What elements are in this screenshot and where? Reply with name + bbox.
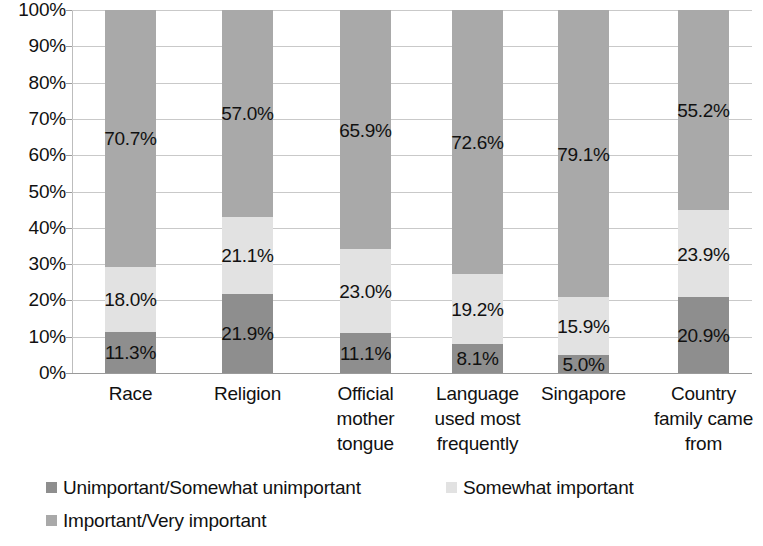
bar-segment-value-label: 8.1% [456, 349, 498, 368]
bar-segment: 65.9% [340, 10, 391, 249]
y-axis-tick-mark [66, 83, 72, 84]
bar-segment-value-label: 70.7% [104, 129, 156, 148]
legend-swatch-somewhat-important-icon [446, 482, 457, 493]
bar-segment-value-label: 72.6% [451, 133, 503, 152]
bar-race: 70.7%18.0%11.3% [105, 10, 156, 373]
bar-segment: 72.6% [452, 10, 503, 274]
x-axis-category-line: tongue [306, 431, 426, 456]
bar-segment: 15.9% [558, 297, 609, 355]
bar-segment: 23.0% [340, 249, 391, 332]
y-axis-tick-label: 70% [4, 109, 66, 128]
gridline [72, 119, 752, 120]
gridline [72, 228, 752, 229]
bar-segment: 19.2% [452, 274, 503, 344]
y-axis-tick-mark [66, 300, 72, 301]
y-axis-tick-label: 100% [4, 0, 66, 19]
bar-segment-value-label: 23.9% [677, 244, 729, 263]
x-axis-category-line: used most [418, 406, 538, 431]
gridline [72, 337, 752, 338]
legend-row-2: Important/Very important [46, 511, 746, 544]
x-axis-category-line: Official [306, 381, 426, 406]
y-axis-tick-label: 30% [4, 254, 66, 273]
x-axis-category-line: Language [418, 381, 538, 406]
bar-segment-value-label: 20.9% [677, 326, 729, 345]
x-axis-category-label: Religion [188, 381, 308, 406]
x-axis-category-label: Officialmothertongue [306, 381, 426, 456]
bar-segment-value-label: 21.1% [221, 246, 273, 265]
bar-official-mother-tongue: 65.9%23.0%11.1% [340, 10, 391, 373]
x-axis-category-label: Languageused mostfrequently [418, 381, 538, 456]
bar-segment-value-label: 55.2% [677, 101, 729, 120]
bar-segment-value-label: 11.1% [340, 343, 391, 362]
bar-segment-value-label: 21.9% [221, 324, 273, 343]
x-axis-category-label: Race [71, 381, 191, 406]
bar-segment: 21.1% [222, 217, 273, 294]
legend-item-somewhat-important[interactable]: Somewhat important [446, 478, 634, 497]
gridline [72, 83, 752, 84]
bar-segment: 18.0% [105, 267, 156, 332]
gridline [72, 300, 752, 301]
x-axis-category-line: Religion [188, 381, 308, 406]
bar-segment: 8.1% [452, 344, 503, 373]
y-axis-tick-label: 40% [4, 218, 66, 237]
bar-segment: 23.9% [678, 210, 729, 297]
plot-area: 70.7%18.0%11.3%57.0%21.1%21.9%65.9%23.0%… [72, 10, 752, 373]
legend-label-somewhat-important: Somewhat important [463, 478, 634, 497]
bar-segment-value-label: 15.9% [557, 317, 609, 336]
bar-segment-value-label: 5.0% [562, 354, 604, 373]
y-axis-tick-label: 80% [4, 73, 66, 92]
y-axis-tick-label: 50% [4, 182, 66, 201]
bar-segment: 70.7% [105, 10, 156, 267]
gridline [72, 264, 752, 265]
y-axis-tick-label: 20% [4, 290, 66, 309]
y-axis-labels: 100%90%80%70%60%50%40%30%20%10%0% [0, 0, 66, 546]
bar-singapore: 79.1%15.9%5.0% [558, 10, 609, 373]
x-axis-category-label: Singapore [524, 381, 644, 406]
gridline [72, 10, 752, 11]
y-axis-tick-mark [66, 10, 72, 11]
legend-row-1: Unimportant/Somewhat unimportant Somewha… [46, 478, 746, 511]
y-axis-tick-mark [66, 264, 72, 265]
bar-segment: 11.3% [105, 332, 156, 373]
legend-swatch-unimportant-icon [46, 482, 57, 493]
y-axis-tick-mark [66, 192, 72, 193]
y-axis-tick-mark [66, 373, 72, 374]
bar-segment-value-label: 65.9% [339, 120, 391, 139]
y-axis-tick-mark [66, 119, 72, 120]
x-axis-category-line: frequently [418, 431, 538, 456]
x-axis-category-line: Race [71, 381, 191, 406]
x-axis-category-line: mother [306, 406, 426, 431]
bar-segment-value-label: 23.0% [339, 281, 391, 300]
bar-segment: 20.9% [678, 297, 729, 373]
bar-segment: 55.2% [678, 10, 729, 210]
bar-segment: 11.1% [340, 333, 391, 373]
y-axis-tick-mark [66, 155, 72, 156]
bar-segment-value-label: 57.0% [221, 104, 273, 123]
x-axis-category-line: Singapore [524, 381, 644, 406]
y-axis-tick-mark [66, 228, 72, 229]
y-axis-tick-label: 90% [4, 36, 66, 55]
bar-segment: 57.0% [222, 10, 273, 217]
y-axis-tick-label: 10% [4, 327, 66, 346]
legend-swatch-important-icon [46, 515, 57, 526]
x-axis-category-line: family came [644, 406, 763, 431]
bar-segment: 21.9% [222, 294, 273, 373]
legend-item-important[interactable]: Important/Very important [46, 511, 266, 530]
gridline [72, 46, 752, 47]
legend-label-important: Important/Very important [63, 511, 266, 530]
bar-segment: 5.0% [558, 355, 609, 373]
bar-segment-value-label: 79.1% [557, 144, 609, 163]
legend-item-unimportant[interactable]: Unimportant/Somewhat unimportant [46, 478, 361, 497]
bar-segment-value-label: 11.3% [105, 343, 156, 362]
chart-legend: Unimportant/Somewhat unimportant Somewha… [46, 478, 746, 544]
bar-language-used-most-frequently: 72.6%19.2%8.1% [452, 10, 503, 373]
x-axis-category-line: from [644, 431, 763, 456]
bar-religion: 57.0%21.1%21.9% [222, 10, 273, 373]
bar-country-family-came-from: 55.2%23.9%20.9% [678, 10, 729, 373]
gridline [72, 373, 752, 374]
stacked-bar-chart: 100%90%80%70%60%50%40%30%20%10%0% 70.7%1… [0, 0, 763, 546]
x-axis-category-line: Country [644, 381, 763, 406]
y-axis-tick-mark [66, 46, 72, 47]
bar-segment-value-label: 18.0% [104, 290, 156, 309]
y-axis-tick-label: 60% [4, 145, 66, 164]
